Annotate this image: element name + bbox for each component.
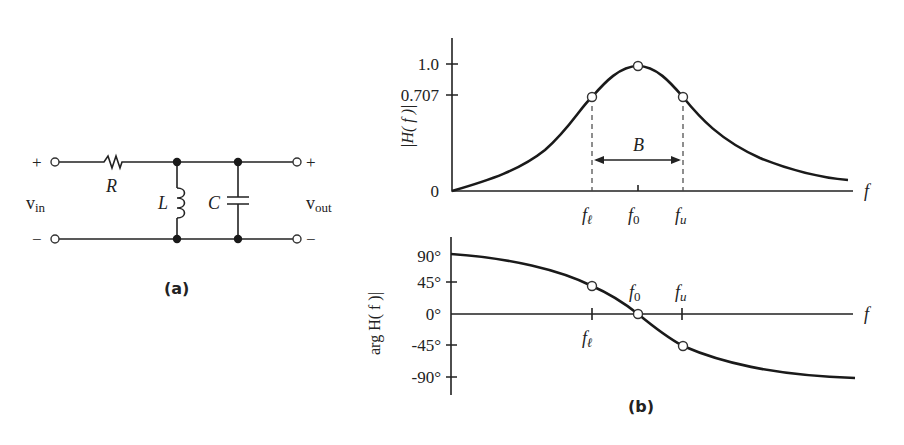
- phase-ytick-neg45: -45°: [412, 336, 441, 355]
- phase-marker-fl: [588, 282, 597, 291]
- phase-ytick-90: 90°: [417, 247, 441, 266]
- inductor-label: L: [157, 193, 168, 213]
- marker-f0: [634, 62, 643, 71]
- vin-label: vin: [26, 193, 46, 215]
- capacitor-icon: [227, 162, 249, 239]
- rlc-circuit: + − + − vin vout R L C (a): [26, 153, 332, 298]
- phase-curve: [451, 254, 855, 378]
- arrow-head-left-icon: [594, 156, 604, 164]
- marker-fl: [588, 93, 597, 102]
- vout-label: vout: [306, 193, 332, 215]
- input-plus-label: +: [32, 153, 42, 172]
- phase-xtick-fl: fℓ: [582, 328, 593, 350]
- ytick-0: 0: [431, 182, 440, 201]
- xtick-f0: f0: [628, 205, 640, 227]
- resistor-label: R: [105, 176, 117, 196]
- phase-marker-f0: [634, 310, 643, 319]
- phase-xlabel: f: [864, 304, 872, 324]
- ytick-0707: 0.707: [401, 86, 440, 105]
- phase-ytick-45: 45°: [417, 273, 441, 292]
- magnitude-ylabel: |H( f )|: [399, 105, 417, 148]
- plots-caption: (b): [628, 397, 654, 416]
- phase-ylabel: arg H( f )|: [366, 292, 384, 355]
- phase-ytick-0: 0°: [426, 305, 441, 324]
- bandwidth-label: B: [633, 135, 644, 155]
- figure: + − + − vin vout R L C (a) 1.0 0.707 0 |…: [0, 0, 904, 445]
- phase-marker-fu: [679, 342, 688, 351]
- phase-ytick-neg90: -90°: [412, 368, 441, 387]
- magnitude-plot: 1.0 0.707 0 |H( f )| B f fℓ f0 fu: [399, 38, 872, 227]
- xtick-fl: fℓ: [582, 205, 593, 227]
- ytick-1: 1.0: [418, 55, 439, 74]
- input-terminal-minus: [51, 235, 59, 243]
- input-terminal-plus: [51, 158, 59, 166]
- output-terminal-minus: [293, 235, 301, 243]
- output-minus-label: −: [306, 230, 316, 249]
- junction-dot: [173, 235, 181, 243]
- magnitude-xlabel: f: [864, 181, 872, 201]
- output-terminal-plus: [293, 158, 301, 166]
- input-minus-label: −: [32, 230, 42, 249]
- junction-dot: [173, 158, 181, 166]
- magnitude-curve: [452, 66, 848, 191]
- phase-xtick-fu: fu: [675, 282, 687, 304]
- phase-plot: 90° 45° 0° -45° -90° arg H( f )| f fℓ f0…: [366, 237, 872, 416]
- junction-dot: [234, 235, 242, 243]
- inductor-coil-icon: [177, 188, 185, 218]
- xtick-fu: fu: [675, 205, 687, 227]
- circuit-caption: (a): [164, 279, 189, 298]
- arrow-head-right-icon: [671, 156, 681, 164]
- output-plus-label: +: [306, 153, 316, 172]
- capacitor-label: C: [208, 193, 221, 213]
- phase-xtick-f0: f0: [629, 282, 641, 304]
- junction-dot: [234, 158, 242, 166]
- marker-fu: [679, 93, 688, 102]
